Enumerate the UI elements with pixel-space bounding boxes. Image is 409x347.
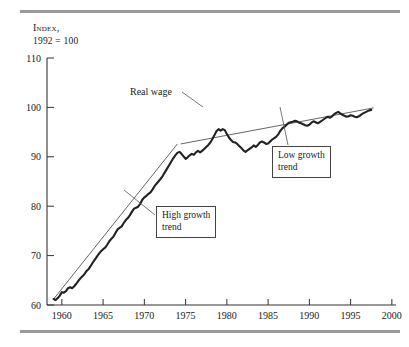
svg-text:1985: 1985 — [258, 310, 278, 321]
svg-text:60: 60 — [31, 300, 41, 311]
svg-text:1980: 1980 — [217, 310, 237, 321]
svg-text:100: 100 — [26, 102, 41, 113]
svg-text:1975: 1975 — [176, 310, 196, 321]
real-wage-label: Real wage — [130, 86, 172, 97]
real-wage-series-line — [54, 110, 372, 300]
high-growth-callout-line2: trend — [162, 222, 182, 232]
chart-svg: 60708090100110 1960196519701975198019851… — [0, 0, 409, 347]
low-growth-callout-line1: Low growth — [278, 150, 325, 160]
svg-text:110: 110 — [26, 53, 41, 64]
svg-text:1965: 1965 — [93, 310, 113, 321]
high-growth-trend-callout: High growth trend — [156, 206, 216, 238]
low-growth-trend-line — [181, 108, 374, 144]
low-growth-callout-line2: trend — [278, 162, 298, 172]
svg-text:1970: 1970 — [134, 310, 154, 321]
svg-text:1960: 1960 — [52, 310, 72, 321]
svg-text:70: 70 — [31, 250, 41, 261]
x-axis-ticks: 196019651970197519801985199019952000 — [52, 299, 402, 321]
real-wage-leader-line — [182, 92, 203, 107]
low-growth-trend-callout: Low growth trend — [272, 146, 331, 178]
svg-text:2000: 2000 — [382, 310, 402, 321]
high-growth-callout-line1: High growth — [162, 210, 210, 220]
svg-text:1990: 1990 — [299, 310, 319, 321]
svg-text:90: 90 — [31, 151, 41, 162]
figure-container: Index, 1992 = 100 60708090100110 1960196… — [0, 0, 409, 347]
svg-text:1995: 1995 — [341, 310, 361, 321]
y-axis-ticks: 60708090100110 — [26, 53, 54, 311]
svg-text:80: 80 — [31, 201, 41, 212]
